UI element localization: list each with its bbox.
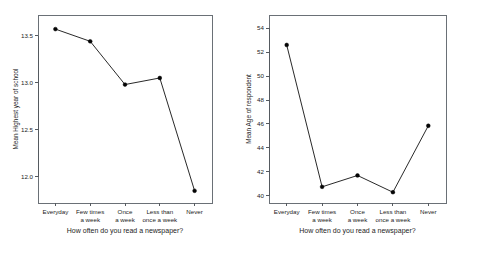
left-chart-svg: 12.012.513.013.5EverydayFew timesa weekO… (0, 0, 240, 253)
data-point-marker (88, 39, 92, 43)
x-axis-tick-label-line: Few times (308, 208, 336, 215)
y-axis-tick-label: 48 (257, 96, 264, 103)
x-axis-tick-label-line: once a week (142, 216, 178, 223)
x-axis-tick-label: Oncea week (348, 208, 369, 223)
x-axis-tick-label-line: Once (350, 208, 365, 215)
y-axis-tick-label: 12.5 (21, 126, 34, 133)
x-axis-tick-label-line: a week (312, 216, 333, 223)
x-axis-tick-label: Oncea week (115, 208, 136, 223)
data-point-marker (356, 174, 360, 178)
data-point-marker (193, 189, 197, 193)
x-axis-tick-label-line: a week (115, 216, 136, 223)
y-axis-tick-label: 13.0 (21, 79, 34, 86)
x-axis-title: How often do you read a newspaper? (299, 227, 415, 235)
x-axis-tick-label: Less thanonce a week (376, 208, 412, 223)
x-axis-tick-label: Everyday (274, 208, 301, 215)
x-axis-tick-label: Never (420, 208, 437, 215)
x-axis-tick-label-line: Few times (76, 208, 104, 215)
x-axis-tick-label-line: Never (420, 208, 437, 215)
data-series-line (287, 45, 429, 192)
x-axis-tick-label: Never (186, 208, 203, 215)
y-axis-tick-label: 46 (257, 120, 264, 127)
x-axis-tick-label-line: Everyday (274, 208, 301, 215)
x-axis-title: How often do you read a newspaper? (67, 227, 183, 235)
x-axis-tick-label: Less thanonce a week (142, 208, 178, 223)
y-axis-tick-label: 50 (257, 72, 264, 79)
y-axis-tick-label: 42 (257, 168, 264, 175)
data-point-marker (285, 43, 289, 47)
chart-panel-left: 12.012.513.013.5EverydayFew timesa weekO… (0, 0, 240, 253)
x-axis-tick-label-line: a week (348, 216, 369, 223)
y-axis-tick-label: 40 (257, 192, 264, 199)
figure-two-panel-line-charts: 12.012.513.013.5EverydayFew timesa weekO… (0, 0, 481, 253)
y-axis-tick-label: 13.5 (21, 32, 34, 39)
data-point-marker (426, 124, 430, 128)
x-axis-tick-label-line: Less than (379, 208, 406, 215)
y-axis-tick-label: 12.0 (21, 173, 34, 180)
chart-panel-right: 4042444648505254EverydayFew timesa weekO… (241, 0, 481, 253)
y-axis-title: Mean Age of respondent (245, 74, 253, 144)
x-axis-tick-label-line: a week (80, 216, 101, 223)
y-axis-tick-label: 44 (257, 144, 264, 151)
x-axis-tick-label: Few timesa week (76, 208, 104, 223)
x-axis-tick-label-line: Everyday (43, 208, 70, 215)
x-axis-tick-label-line: Never (186, 208, 203, 215)
y-axis-tick-label: 54 (257, 24, 264, 31)
data-point-marker (158, 76, 162, 80)
plot-frame (38, 15, 212, 203)
y-axis-title: Mean Highest year of school (12, 69, 20, 150)
data-point-marker (54, 27, 58, 31)
data-point-marker (320, 185, 324, 189)
data-point-marker (391, 190, 395, 194)
x-axis-tick-label-line: Once (118, 208, 133, 215)
x-axis-tick-label-line: Less than (146, 208, 173, 215)
right-chart-svg: 4042444648505254EverydayFew timesa weekO… (241, 0, 481, 253)
x-axis-tick-label: Few timesa week (308, 208, 336, 223)
x-axis-tick-label: Everyday (43, 208, 70, 215)
data-series-line (55, 29, 194, 191)
x-axis-tick-label-line: once a week (376, 216, 412, 223)
y-axis-tick-label: 52 (257, 48, 264, 55)
data-point-marker (123, 83, 127, 87)
